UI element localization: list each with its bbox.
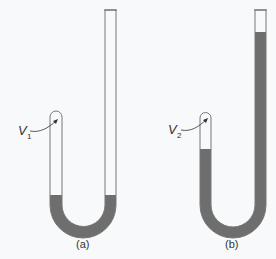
boyle-law-diagram: V 1 (a) V 2 (b)	[0, 0, 276, 259]
caption-a: (a)	[76, 238, 89, 250]
arrow-b	[181, 120, 206, 130]
arrow-a	[30, 121, 56, 131]
liquid-a	[50, 195, 116, 238]
panel-b: V 2 (b)	[168, 10, 267, 250]
liquid-b	[200, 32, 266, 238]
volume-subscript-a: 1	[27, 132, 32, 141]
volume-subscript-b: 2	[177, 131, 182, 140]
caption-b: (b)	[225, 238, 238, 250]
panel-a: V 1 (a)	[18, 10, 117, 250]
